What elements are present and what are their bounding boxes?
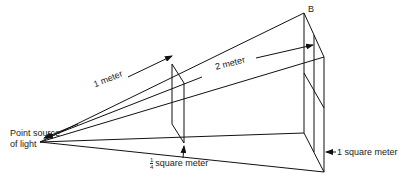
small-square — [172, 64, 184, 143]
corner-b-label: B — [308, 4, 314, 15]
fraction-numerator: 1 — [150, 157, 153, 164]
source-label-line2: of light — [10, 139, 60, 150]
ray-bottom-left — [40, 133, 304, 142]
small-area-label: 1 4 square meter — [150, 157, 208, 170]
fraction-denominator: 4 — [150, 164, 153, 170]
ray-top-right — [40, 57, 324, 142]
distance-1-arrow-right — [128, 56, 172, 77]
large-area-label: 1 square meter — [337, 147, 398, 158]
source-label: Point source of light — [10, 128, 60, 150]
quarter-fraction: 1 4 — [150, 157, 153, 170]
distance-2-arrow-left — [46, 77, 202, 138]
source-label-line1: Point source — [10, 128, 60, 139]
small-area-text: square meter — [155, 158, 208, 168]
